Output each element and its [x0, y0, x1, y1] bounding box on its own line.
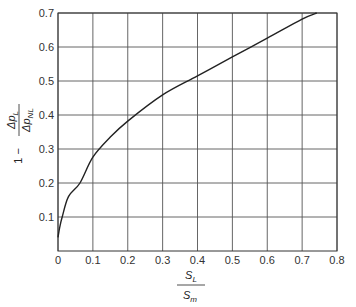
- y-axis-ticks: 0.10.20.30.40.50.60.7: [39, 7, 54, 223]
- svg-text:SL: SL: [185, 269, 197, 284]
- y-tick-label: 0.2: [39, 177, 54, 189]
- y-tick-label: 0.4: [39, 109, 54, 121]
- x-tick-label: 0.3: [155, 254, 170, 266]
- svg-text:ΔpNL: ΔpNL: [20, 108, 35, 133]
- x-axis-label: SL Sm: [177, 269, 205, 304]
- y-tick-label: 0.1: [39, 211, 54, 223]
- x-tick-label: 0.6: [260, 254, 275, 266]
- x-tick-label: 0.8: [329, 254, 344, 266]
- x-tick-label: 0.1: [85, 254, 100, 266]
- x-tick-label: 0.5: [225, 254, 240, 266]
- y-tick-label: 0.3: [39, 143, 54, 155]
- y-tick-label: 0.7: [39, 7, 54, 19]
- line-chart: 00.10.20.30.40.50.60.70.8 0.10.20.30.40.…: [0, 0, 356, 307]
- x-tick-label: 0.4: [190, 254, 205, 266]
- x-tick-label: 0.2: [120, 254, 135, 266]
- x-axis-ticks: 00.10.20.30.40.50.60.70.8: [55, 254, 345, 266]
- x-tick-label: 0.7: [294, 254, 309, 266]
- y-tick-label: 0.5: [39, 75, 54, 87]
- svg-text:Sm: Sm: [183, 289, 197, 304]
- svg-text:1 −: 1 −: [12, 148, 24, 164]
- grid-lines: [58, 13, 337, 251]
- y-axis-label: 1 − ΔpL ΔpNL: [5, 104, 35, 164]
- x-tick-label: 0: [55, 254, 61, 266]
- y-tick-label: 0.6: [39, 41, 54, 53]
- svg-text:ΔpL: ΔpL: [5, 111, 20, 130]
